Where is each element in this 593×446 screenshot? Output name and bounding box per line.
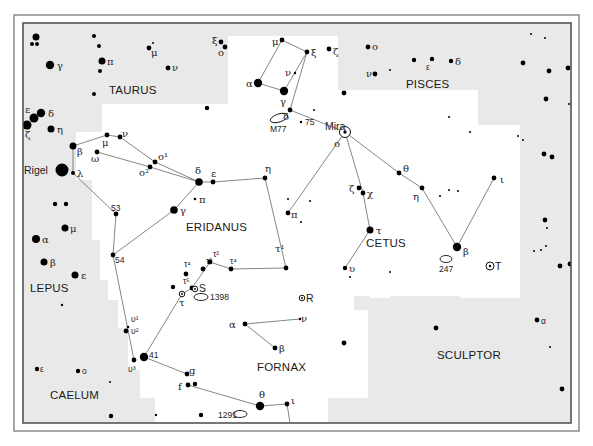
star-dot-icon [195, 178, 203, 186]
star-label: 75 [305, 117, 315, 127]
star-dot-icon [46, 61, 54, 69]
star [457, 190, 459, 192]
star [193, 382, 197, 386]
star [521, 61, 526, 66]
star [558, 264, 563, 269]
star-label: Mira [325, 120, 346, 132]
star-label: δ [283, 111, 289, 122]
star-label: ν [122, 128, 128, 139]
star-dot-icon [533, 250, 535, 252]
star-dot-icon [30, 114, 39, 123]
star [566, 66, 571, 71]
star-dot-icon [127, 326, 130, 329]
star-dot-icon [109, 381, 111, 383]
star-dot-icon [186, 383, 191, 388]
star [550, 155, 555, 160]
star-dot-icon [35, 42, 39, 46]
star-label: υ [349, 263, 355, 274]
star-label: o¹ [158, 151, 168, 162]
star-dot-icon [373, 72, 378, 77]
star-label: υ³ [128, 364, 136, 374]
star-dot-icon [64, 202, 68, 206]
star-dot-icon [549, 346, 551, 348]
star-label: o [372, 41, 378, 52]
star-dot-icon [547, 69, 552, 74]
star-dot-icon [62, 225, 69, 232]
star-label: μ [272, 36, 279, 47]
star-dot-icon [367, 227, 374, 234]
star-dot-icon [98, 69, 102, 73]
star-label: β [77, 146, 83, 157]
star-label: γ [180, 205, 186, 216]
star [543, 218, 548, 223]
star-dot-icon [280, 38, 285, 43]
star [98, 69, 102, 73]
star-dot-icon [33, 34, 40, 41]
star-label: υ¹ [131, 314, 139, 324]
star [522, 139, 524, 141]
star-label: ζ [333, 46, 339, 57]
star-dot-icon [517, 135, 519, 137]
star-dot-icon [286, 211, 291, 216]
variable-star-dot [194, 288, 196, 290]
star [35, 42, 39, 46]
star-label: ω [91, 153, 99, 164]
star-dot-icon [243, 322, 248, 327]
star-dot-icon [97, 44, 101, 48]
star [560, 387, 565, 392]
star [517, 135, 519, 137]
star-label: β [463, 246, 469, 257]
star [64, 202, 68, 206]
star-dot-icon [201, 267, 206, 272]
star-label: τ [376, 225, 382, 236]
star [434, 326, 439, 331]
star [92, 34, 96, 38]
star-label: o² [139, 167, 149, 178]
star-label: ι [500, 174, 504, 185]
star-dot-icon [287, 198, 289, 200]
star-label: π [199, 194, 206, 205]
star-dot-icon [140, 353, 148, 361]
star-label: 53 [111, 203, 121, 213]
star-dot-icon [300, 121, 302, 123]
star-label: 41 [149, 350, 159, 360]
star-dot-icon [72, 272, 79, 279]
star [155, 414, 157, 416]
deep-sky-label: 247 [439, 264, 453, 274]
star [547, 69, 552, 74]
star-dot-icon [469, 131, 471, 133]
star-dot-icon [71, 171, 75, 175]
star-label: τ² [213, 249, 219, 259]
star [30, 42, 34, 46]
star [545, 245, 547, 247]
star-label: τ¹ [275, 243, 285, 254]
star-label: π [291, 209, 298, 220]
star-label: α [42, 234, 49, 245]
star-dot-icon [543, 218, 548, 223]
star-dot-icon [194, 198, 197, 201]
star-label: ε [25, 104, 30, 115]
star-dot-icon [560, 387, 565, 392]
star-label: π [107, 56, 114, 67]
deep-sky-label: M77 [270, 124, 287, 134]
star-dot-icon [361, 191, 366, 196]
star-dot-icon [540, 249, 542, 251]
star-label: η [265, 163, 271, 174]
star-dot-icon [171, 285, 175, 289]
star-label: ξ [311, 47, 317, 58]
star-dot-icon [92, 92, 96, 96]
star-dot-icon [343, 266, 347, 270]
star-dot-icon [41, 259, 48, 266]
star-dot-icon [76, 369, 80, 373]
star [542, 152, 547, 157]
star-chart-canvas: M7713982471291 γπμνδεζηξoμξζναγδ75oνεδβR… [0, 0, 593, 446]
star-dot-icon [327, 47, 332, 52]
star [349, 276, 351, 278]
star [342, 91, 347, 96]
constellation-name-lepus: LEPUS [30, 282, 69, 294]
star-dot-icon [48, 126, 55, 133]
star-dot-icon [166, 66, 171, 71]
star-dot-icon [199, 413, 203, 417]
star-dot-icon [412, 58, 416, 62]
star-label: μ [70, 223, 77, 234]
